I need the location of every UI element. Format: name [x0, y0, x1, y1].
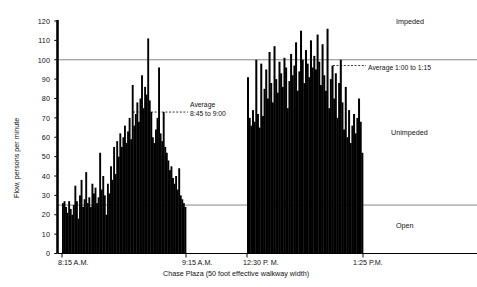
y-tick-label: 60 — [28, 133, 50, 142]
y-tick-label: 80 — [28, 94, 50, 103]
flow-chart: 0102030405060708090100110120 8:15 A.M.9:… — [0, 0, 477, 287]
y-tick-label: 20 — [28, 210, 50, 219]
zone-label-impeded: Impeded — [396, 17, 424, 26]
x-tick-label: 9:15 A.M. — [182, 258, 212, 267]
annotation-afternoon-average: Average 1:00 to 1:15 — [368, 64, 431, 73]
y-tick-label: 10 — [28, 230, 50, 239]
x-tick-label: 8:15 A.M. — [58, 258, 88, 267]
y-tick-label: 40 — [28, 172, 50, 181]
y-tick-label: 90 — [28, 75, 50, 84]
y-tick-label: 50 — [28, 152, 50, 161]
y-axis-title: Flow, persons per minute — [12, 118, 21, 198]
bar — [361, 153, 363, 254]
zone-label-open: Open — [396, 221, 414, 230]
y-tick-label: 0 — [28, 249, 50, 258]
x-axis-title: Chase Plaza (50 foot effective walkway w… — [86, 269, 386, 278]
y-tick-label: 100 — [28, 56, 50, 65]
x-tick-label: 1:25 P.M. — [353, 258, 383, 267]
y-tick-label: 120 — [28, 17, 50, 26]
bars-morning-series — [62, 38, 186, 253]
bars-afternoon-series — [247, 29, 363, 254]
bar — [184, 207, 186, 254]
chart-canvas — [0, 0, 477, 287]
x-tick-label: 12:30 P. M. — [243, 258, 279, 267]
y-tick-label: 30 — [28, 191, 50, 200]
annotation-morning-average-line1: Average — [190, 101, 215, 110]
zone-label-unimpeded: Unimpeded — [391, 128, 428, 137]
annotation-morning-average-line2: 8:45 to 9:00 — [190, 110, 226, 119]
y-tick-label: 70 — [28, 114, 50, 123]
y-tick-label: 110 — [28, 36, 50, 45]
